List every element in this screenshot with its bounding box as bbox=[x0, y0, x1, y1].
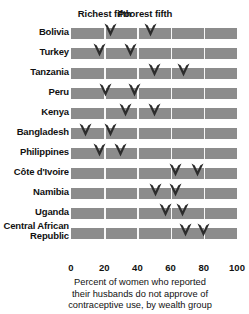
gridline bbox=[171, 42, 173, 62]
gridline bbox=[137, 22, 139, 42]
caption-line-3: contraceptive use, by wealth group bbox=[40, 300, 240, 312]
chart-rows: BoliviaTurkeyTanzaniaPeruKenyaBangladesh… bbox=[0, 22, 249, 242]
gridline bbox=[204, 182, 206, 202]
x-tick-label: 20 bbox=[99, 262, 110, 273]
gridline bbox=[171, 62, 173, 82]
gridline bbox=[171, 222, 173, 242]
gridline bbox=[104, 142, 106, 162]
chart-row: Tanzania bbox=[0, 62, 249, 82]
legend-label-poorest-fifth: Poorest fifth bbox=[118, 8, 173, 19]
chart-row: Uganda bbox=[0, 202, 249, 222]
gridline bbox=[171, 22, 173, 42]
x-axis: 020406080100 bbox=[0, 262, 249, 276]
wealth-group-chart: Richest fifth Poorest fifth BoliviaTurke… bbox=[0, 0, 249, 314]
row-label-turkey: Turkey bbox=[0, 47, 69, 57]
chart-row: Bolivia bbox=[0, 22, 249, 42]
gridline bbox=[137, 182, 139, 202]
gridline bbox=[137, 142, 139, 162]
gridline bbox=[171, 142, 173, 162]
row-track bbox=[71, 208, 237, 219]
gridline bbox=[104, 42, 106, 62]
gridline bbox=[137, 42, 139, 62]
chart-legend: Richest fifth Poorest fifth bbox=[0, 8, 249, 22]
x-tick-label: 0 bbox=[68, 262, 73, 273]
chart-row: Namibia bbox=[0, 182, 249, 202]
x-tick-label: 40 bbox=[132, 262, 143, 273]
row-track bbox=[71, 228, 237, 239]
x-tick-label: 60 bbox=[165, 262, 176, 273]
gridline bbox=[104, 222, 106, 242]
gridline bbox=[137, 62, 139, 82]
gridline bbox=[137, 222, 139, 242]
gridline bbox=[204, 22, 206, 42]
chart-row: Turkey bbox=[0, 42, 249, 62]
gridline bbox=[171, 162, 173, 182]
gridline bbox=[204, 42, 206, 62]
gridline bbox=[104, 122, 106, 142]
row-label-central-african-republic: Central AfricanRepublic bbox=[0, 221, 69, 241]
row-label-peru: Peru bbox=[0, 87, 69, 97]
row-label-philippines: Philippines bbox=[0, 147, 69, 157]
gridline bbox=[204, 102, 206, 122]
gridline bbox=[137, 162, 139, 182]
gridline bbox=[137, 102, 139, 122]
chart-row: Philippines bbox=[0, 142, 249, 162]
row-label-bangladesh: Bangladesh bbox=[0, 127, 69, 137]
gridline bbox=[104, 102, 106, 122]
row-track bbox=[71, 108, 237, 119]
gridline bbox=[204, 162, 206, 182]
row-track bbox=[71, 48, 237, 59]
row-label-c-te-d-ivoire: Côte d'Ivoire bbox=[0, 167, 69, 177]
gridline bbox=[171, 82, 173, 102]
row-label-bolivia: Bolivia bbox=[0, 27, 69, 37]
gridline bbox=[171, 122, 173, 142]
gridline bbox=[104, 162, 106, 182]
x-tick-label: 80 bbox=[199, 262, 210, 273]
gridline bbox=[137, 82, 139, 102]
gridline bbox=[104, 202, 106, 222]
chart-row: Bangladesh bbox=[0, 122, 249, 142]
caption-line-2: their husbands do not approve of bbox=[40, 289, 240, 301]
row-track bbox=[71, 168, 237, 179]
row-label-uganda: Uganda bbox=[0, 207, 69, 217]
gridline bbox=[137, 122, 139, 142]
chart-row: Kenya bbox=[0, 102, 249, 122]
x-tick-label: 100 bbox=[229, 262, 245, 273]
gridline bbox=[171, 202, 173, 222]
row-track bbox=[71, 128, 237, 139]
gridline bbox=[204, 62, 206, 82]
gridline bbox=[204, 202, 206, 222]
gridline bbox=[171, 182, 173, 202]
row-track bbox=[71, 88, 237, 99]
gridline bbox=[104, 182, 106, 202]
gridline bbox=[204, 222, 206, 242]
gridline bbox=[204, 142, 206, 162]
row-track bbox=[71, 28, 237, 39]
chart-row: Central AfricanRepublic bbox=[0, 222, 249, 242]
row-label-namibia: Namibia bbox=[0, 187, 69, 197]
chart-row: Peru bbox=[0, 82, 249, 102]
row-track bbox=[71, 148, 237, 159]
gridline bbox=[104, 22, 106, 42]
row-label-tanzania: Tanzania bbox=[0, 67, 69, 77]
gridline bbox=[204, 82, 206, 102]
row-track bbox=[71, 188, 237, 199]
chart-row: Côte d'Ivoire bbox=[0, 162, 249, 182]
gridline bbox=[137, 202, 139, 222]
gridline bbox=[104, 82, 106, 102]
gridline bbox=[104, 62, 106, 82]
axis-caption: Percent of women who reported their husb… bbox=[40, 277, 240, 312]
row-label-kenya: Kenya bbox=[0, 107, 69, 117]
row-track bbox=[71, 68, 237, 79]
caption-line-1: Percent of women who reported bbox=[40, 277, 240, 289]
gridline bbox=[204, 122, 206, 142]
gridline bbox=[171, 102, 173, 122]
